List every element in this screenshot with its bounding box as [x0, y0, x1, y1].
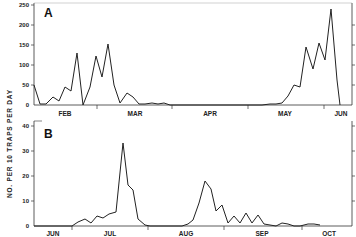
- month-sep: SEP: [255, 230, 269, 237]
- month-mar: MAR: [128, 110, 143, 117]
- panel-b-yticks: 40 30 20 10 0: [22, 123, 355, 229]
- month-aug: AUG: [179, 230, 193, 237]
- month-may: MAY: [278, 110, 293, 117]
- tick-30: 30: [22, 148, 29, 154]
- month-feb: FEB: [59, 110, 72, 117]
- panel-label-b: B: [44, 127, 53, 141]
- panel-a: 250 200 150 100 50 0 FEB MAR APR MAY JUN…: [19, 2, 355, 117]
- panel-b: 40 30 20 10 0 JUN JUL AUG SEP OCT B: [22, 121, 355, 237]
- tick-0b: 0: [26, 223, 30, 229]
- tick-50: 50: [22, 82, 29, 88]
- tick-20: 20: [22, 173, 29, 179]
- month-jun-b: JUN: [46, 230, 59, 237]
- figure: 250 200 150 100 50 0 FEB MAR APR MAY JUN…: [0, 0, 356, 237]
- month-jun: JUN: [334, 110, 347, 117]
- tick-200: 200: [19, 22, 30, 28]
- tick-100: 100: [19, 62, 30, 68]
- panel-label-a: A: [44, 6, 53, 20]
- series-a-line: [34, 9, 340, 105]
- y-axis-label: NO. PER 10 TRAPS PER DAY: [6, 89, 13, 198]
- tick-10: 10: [22, 198, 29, 204]
- tick-150: 150: [19, 42, 30, 48]
- month-apr: APR: [203, 110, 217, 117]
- tick-40: 40: [22, 123, 29, 129]
- tick-250: 250: [19, 2, 30, 8]
- series-b-line: [34, 143, 320, 226]
- month-jul: JUL: [104, 230, 116, 237]
- tick-0: 0: [26, 102, 30, 108]
- month-oct: OCT: [322, 230, 336, 237]
